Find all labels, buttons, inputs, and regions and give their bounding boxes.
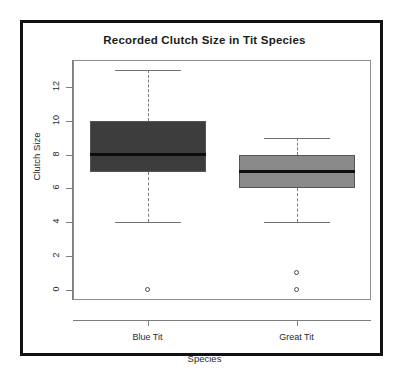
whisker-lower [148,172,149,223]
x-tick-mark [297,320,298,326]
y-tick-mark [66,87,72,88]
y-tick-label: 10 [51,113,61,127]
x-tick-label-great-tit: Great Tit [257,332,337,342]
y-tick-label: 12 [51,79,61,93]
median-line [90,153,206,156]
whisker-cap-lower [264,222,330,223]
page-title: Recorded Clutch Size in Tit Species [23,34,386,46]
whisker-upper [148,70,149,121]
x-tick-label-blue-tit: Blue Tit [108,332,188,342]
chart-canvas: Recorded Clutch Size in Tit Species Clut… [0,0,406,375]
whisker-upper [297,138,298,155]
outer-border-frame: Recorded Clutch Size in Tit Species Clut… [20,20,383,356]
whisker-cap-upper [115,70,181,71]
x-tick-mark [148,320,149,326]
y-tick-mark [66,155,72,156]
y-tick-mark [66,290,72,291]
y-tick-label: 6 [51,180,61,194]
y-axis-line [72,60,73,300]
y-tick-label: 0 [51,282,61,296]
whisker-lower [297,188,298,222]
y-tick-mark [66,121,72,122]
y-tick-mark [66,256,72,257]
whisker-cap-upper [264,138,330,139]
y-tick-mark [66,222,72,223]
x-axis-title: Species [23,353,386,364]
whisker-cap-lower [115,222,181,223]
y-axis-title: Clutch Size [31,127,42,187]
y-tick-mark [66,188,72,189]
y-tick-label: 4 [51,214,61,228]
box-iqr [90,121,206,172]
median-line [239,170,355,173]
y-tick-label: 8 [51,147,61,161]
y-tick-label: 2 [51,248,61,262]
x-axis-line [73,320,371,321]
